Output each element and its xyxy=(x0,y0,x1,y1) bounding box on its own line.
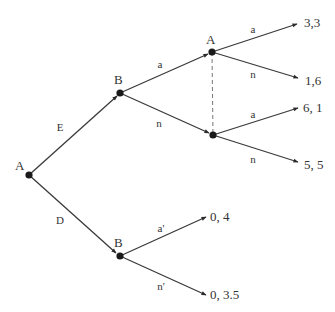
decision-node-a3 xyxy=(209,131,216,138)
decision-node-root xyxy=(25,171,32,178)
player-label: B xyxy=(114,235,123,250)
action-label: n xyxy=(156,117,162,129)
edge-b1-a2 xyxy=(120,54,208,93)
action-label: a xyxy=(251,108,256,120)
payoff-label: 3,3 xyxy=(304,15,320,30)
information-set-line xyxy=(212,52,213,135)
edge-root-b2 xyxy=(29,175,116,253)
player-label: A xyxy=(15,158,25,173)
player-label: A xyxy=(206,32,216,47)
payoff-label: 0, 4 xyxy=(210,209,230,224)
edge-root-b1 xyxy=(29,96,117,175)
labels: EDananana'n'ABAB3,31,66, 15, 50, 40, 3.5 xyxy=(15,15,324,302)
edge-a3-t3 xyxy=(213,108,298,135)
edge-b1-a3 xyxy=(120,93,209,133)
player-label: B xyxy=(114,72,123,87)
payoff-label: 0, 3.5 xyxy=(210,287,239,302)
action-label: D xyxy=(56,214,64,226)
action-label: n xyxy=(250,153,256,165)
edges xyxy=(29,24,298,295)
decision-node-b2 xyxy=(116,252,123,259)
game-tree: EDananana'n'ABAB3,31,66, 15, 50, 40, 3.5 xyxy=(0,0,335,312)
action-label: n' xyxy=(157,280,165,292)
information-set-dashed-line xyxy=(212,52,213,135)
action-label: a xyxy=(251,23,256,35)
payoff-label: 5, 5 xyxy=(304,157,324,172)
decision-node-a2 xyxy=(208,48,215,55)
action-label: n xyxy=(250,68,256,80)
decision-node-b1 xyxy=(116,89,123,96)
payoff-label: 6, 1 xyxy=(303,100,323,115)
action-label: a' xyxy=(158,222,165,234)
action-label: a xyxy=(158,58,163,70)
payoff-label: 1,6 xyxy=(305,73,322,88)
action-label: E xyxy=(57,121,64,133)
